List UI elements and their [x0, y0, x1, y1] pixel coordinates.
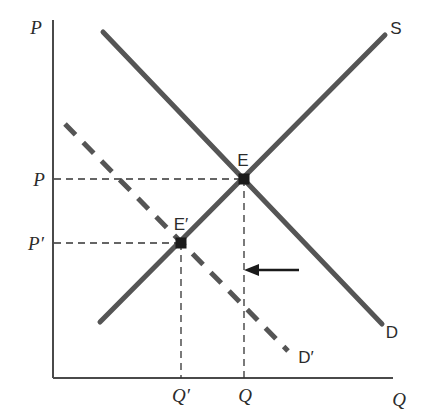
equilibrium-point-E: [239, 174, 250, 185]
shift-arrow-head: [244, 264, 259, 276]
labels-group: P Q S D D′ E E′ P P′ Q′ Q: [27, 17, 406, 410]
diagram-canvas: P Q S D D′ E E′ P P′ Q′ Q: [0, 0, 424, 420]
price-shifted-tick-label: P′: [27, 233, 45, 254]
shifted-demand-curve-label: D′: [298, 348, 313, 367]
supply-curve-label: S: [390, 19, 401, 38]
equilibrium-label-E-prime: E′: [174, 215, 189, 234]
equilibrium-label-E: E: [237, 151, 248, 170]
equilibrium-point-E-prime: [176, 238, 187, 249]
supply-demand-figure: P Q S D D′ E E′ P P′ Q′ Q: [0, 0, 424, 420]
x-axis-label: Q: [392, 389, 406, 410]
quantity-tick-label: Q: [238, 385, 252, 406]
y-axis-label: P: [29, 17, 42, 38]
demand-curve-label: D: [386, 323, 398, 342]
price-tick-label: P: [32, 169, 45, 190]
quantity-shifted-tick-label: Q′: [172, 385, 191, 406]
shift-arrow: [244, 264, 299, 276]
curves-group: [65, 32, 385, 351]
